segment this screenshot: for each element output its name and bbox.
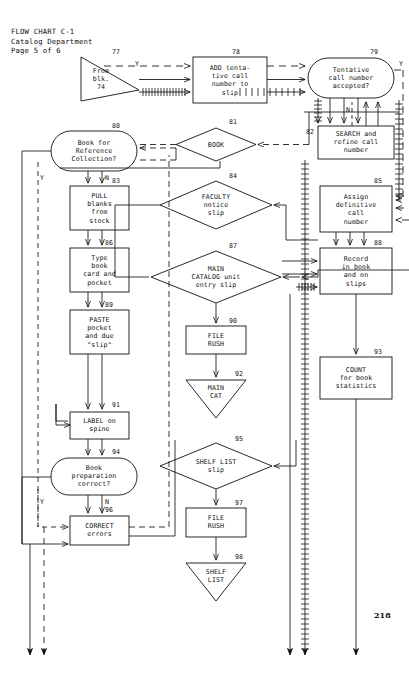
node-86-number: 86 xyxy=(105,239,113,247)
chart-title-line3: Page 5 of 6 xyxy=(11,46,61,55)
node-82-label: SEARCH and refine call number xyxy=(334,130,379,155)
node-87-label: MAIN CATALOG unit entry slip xyxy=(192,265,241,290)
node-83-number: 83 xyxy=(112,177,120,185)
node-95-number: 95 xyxy=(235,435,243,443)
node-79-label: Tentative call number accepted? xyxy=(329,66,374,91)
node-93-label: COUNT for book statistics xyxy=(336,366,377,391)
node-80-label: Book for Reference Collection? xyxy=(72,139,117,164)
node-78-label: ADD tenta- tive call number to slip xyxy=(210,64,251,97)
node-95-label: SHELF LIST slip xyxy=(196,458,237,474)
node-82-number: 82 xyxy=(306,128,314,136)
node-84-label: FACULTY notice slip xyxy=(202,193,231,218)
node-97-number: 97 xyxy=(235,499,243,507)
flow-chart-page: FLOW CHART C-1 Catalog Department Page 5… xyxy=(0,0,409,683)
node-87-number: 87 xyxy=(229,242,237,250)
node-96-number: 96 xyxy=(105,506,113,514)
node-88-label: Record in book and on slips xyxy=(342,255,371,288)
node-80-number: 80 xyxy=(112,122,120,130)
node-97-label: FILE RUSH xyxy=(208,514,224,530)
node-92-label: MAIN CAT xyxy=(208,384,224,400)
branch-label-n-79: N xyxy=(346,106,350,114)
node-93-number: 93 xyxy=(374,348,382,356)
node-89-label: PASTE pocket and due "slip" xyxy=(85,316,114,349)
node-81-label: BOOK xyxy=(208,141,224,149)
node-77-number: 77 xyxy=(112,48,120,56)
node-77-label: From blk. 74 xyxy=(93,67,109,92)
node-85-number: 85 xyxy=(374,177,382,185)
node-91-number: 91 xyxy=(112,401,120,409)
node-90-number: 90 xyxy=(229,317,237,325)
node-94-number: 94 xyxy=(112,448,120,456)
node-98-number: 98 xyxy=(235,553,243,561)
node-79-number: 79 xyxy=(370,48,378,56)
branch-label-y-79: Y xyxy=(399,60,403,68)
node-89-number: 89 xyxy=(105,301,113,309)
node-85-label: Assign definitive call number xyxy=(336,193,377,226)
node-92-number: 92 xyxy=(235,370,243,378)
chart-title-line2: Catalog Department xyxy=(11,37,93,46)
branch-label-n-80: N xyxy=(105,174,109,182)
page-number: 218 xyxy=(374,610,391,620)
node-94-label: Book preparation correct? xyxy=(72,464,117,489)
node-81-number: 81 xyxy=(229,118,237,126)
branch-label-y-top: Y xyxy=(135,60,139,68)
node-96-label: CORRECT errors xyxy=(85,522,114,538)
node-83-label: PULL blanks from stock xyxy=(87,192,111,225)
branch-label-y-94: Y xyxy=(40,498,44,506)
branch-label-y-80: Y xyxy=(40,174,44,182)
chart-title-line1: FLOW CHART C-1 xyxy=(11,27,74,36)
node-91-label: LABEL on spine xyxy=(83,417,116,433)
node-88-number: 88 xyxy=(374,239,382,247)
node-78-number: 78 xyxy=(232,48,240,56)
node-98-label: SHELF LIST xyxy=(206,568,226,584)
node-90-label: FILE RUSH xyxy=(208,332,224,348)
node-84-number: 84 xyxy=(229,172,237,180)
branch-label-n-94: N xyxy=(105,498,109,506)
flowchart-vector-layer xyxy=(0,0,409,683)
node-86-label: Type book card and pocket xyxy=(83,254,116,287)
